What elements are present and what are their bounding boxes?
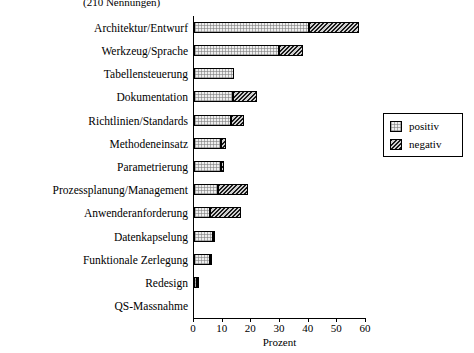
- x-axis-tick-label: 40: [293, 322, 323, 334]
- category-label: QS-Massnahme: [115, 296, 193, 316]
- bar-segment-negativ: [231, 115, 244, 126]
- bar-segment-negativ: [210, 254, 212, 265]
- category-label: Architektur/Entwurf: [94, 18, 193, 38]
- bar-segment-positiv: [194, 68, 234, 79]
- category-label: Methodeneinsatz: [109, 134, 193, 154]
- bar-row: Werkzeug/Sprache: [193, 41, 365, 61]
- bar-row: Datenkapselung: [193, 227, 365, 247]
- bar-row: Anwenderanforderung: [193, 203, 365, 223]
- bar-segment-positiv: [194, 207, 210, 218]
- chart-legend: positivnegativ: [383, 113, 463, 157]
- bar-segment-negativ: [221, 138, 225, 149]
- chart-subtitle: (210 Nennungen): [83, 0, 160, 8]
- x-axis-tick-label: 50: [321, 322, 351, 334]
- plot-area: Architektur/EntwurfWerkzeug/SpracheTabel…: [193, 16, 365, 318]
- bar-row: Redesign: [193, 273, 365, 293]
- x-axis-tick-label: 20: [235, 322, 265, 334]
- bar-segment-negativ: [221, 161, 224, 172]
- category-label: Redesign: [145, 273, 193, 293]
- x-axis-tick-label: 0: [178, 322, 208, 334]
- legend-swatch-negativ: [390, 139, 402, 150]
- bar-segment-positiv: [194, 45, 279, 56]
- category-label: Richtlinien/Standards: [88, 111, 193, 131]
- bar-segment-negativ: [309, 22, 359, 33]
- legend-label: negativ: [409, 138, 441, 151]
- legend-swatch-positiv: [390, 121, 402, 132]
- legend-label: positiv: [409, 120, 439, 133]
- bar-row: Funktionale Zerlegung: [193, 250, 365, 270]
- bar-segment-positiv: [194, 22, 309, 33]
- bar-segment-positiv: [194, 161, 221, 172]
- bar-segment-positiv: [194, 138, 221, 149]
- category-label: Werkzeug/Sprache: [101, 41, 193, 61]
- bar-row: Tabellensteuerung: [193, 64, 365, 84]
- x-axis-tick-label: 30: [264, 322, 294, 334]
- bar-row: Architektur/Entwurf: [193, 18, 365, 38]
- category-label: Parametrierung: [117, 157, 193, 177]
- category-label: Tabellensteuerung: [104, 64, 193, 84]
- bar-segment-negativ: [233, 91, 257, 102]
- bar-row: Dokumentation: [193, 87, 365, 107]
- bar-segment-positiv: [194, 91, 233, 102]
- bar-row: Methodeneinsatz: [193, 134, 365, 154]
- category-label: Dokumentation: [116, 87, 193, 107]
- category-label: Funktionale Zerlegung: [83, 250, 193, 270]
- bar-row: Richtlinien/Standards: [193, 111, 365, 131]
- bar-row: Prozessplanung/Management: [193, 180, 365, 200]
- category-label: Prozessplanung/Management: [53, 180, 193, 200]
- bar-row: Parametrierung: [193, 157, 365, 177]
- x-axis-tick-label: 10: [207, 322, 237, 334]
- bar-chart: (210 Nennungen) Architektur/EntwurfWerkz…: [0, 0, 474, 353]
- bar-segment-negativ: [210, 207, 242, 218]
- bar-segment-negativ: [279, 45, 303, 56]
- category-label: Datenkapselung: [114, 227, 193, 247]
- bar-segment-negativ: [213, 231, 216, 242]
- x-axis-label: Prozent: [193, 336, 366, 348]
- bar-segment-negativ: [218, 184, 248, 195]
- bar-row: QS-Massnahme: [193, 296, 365, 316]
- bar-segment-negativ: [197, 277, 199, 288]
- bar-segment-positiv: [194, 115, 231, 126]
- bar-segment-positiv: [194, 254, 210, 265]
- bar-segment-positiv: [194, 184, 218, 195]
- bar-segment-positiv: [194, 231, 213, 242]
- category-label: Anwenderanforderung: [84, 203, 193, 223]
- x-axis-tick-label: 60: [350, 322, 380, 334]
